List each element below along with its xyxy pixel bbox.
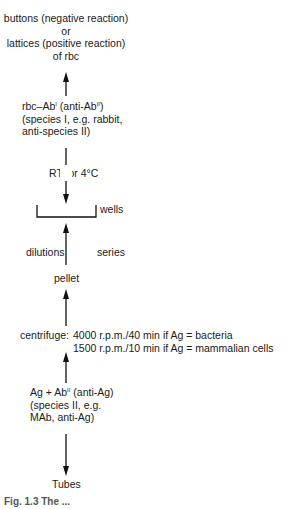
rbc-ab-node: rbc–AbI (anti-AbII) (species I, e.g. rab… bbox=[22, 100, 122, 138]
anti-ag-text: (anti-Ag) bbox=[70, 386, 113, 398]
result-line-3: lattices (positive reaction) bbox=[2, 37, 130, 50]
pellet-label: pellet bbox=[54, 272, 79, 285]
result-line-2: or bbox=[2, 25, 130, 38]
figure-caption: Fig. 1.3 The ... bbox=[4, 496, 70, 509]
arrow-up-to-result bbox=[63, 72, 69, 96]
tubes-label: Tubes bbox=[52, 478, 81, 491]
wells-label: wells bbox=[100, 203, 123, 216]
rbc-ab-line-3: anti-species II) bbox=[22, 125, 122, 138]
centrifuge-label: centrifuge: bbox=[20, 329, 69, 342]
series-label: series bbox=[97, 246, 125, 259]
incubation-label: RT or 4°C bbox=[49, 167, 98, 180]
centrifuge-conditions: 4000 r.p.m./40 min if Ag = bacteria 1500… bbox=[73, 329, 273, 354]
arrow-up-to-wells bbox=[63, 223, 69, 265]
result-line-4: of rbc bbox=[2, 50, 130, 63]
ag-ab-line-3: MAb, anti-Ag) bbox=[30, 411, 114, 424]
rbc-ab-line-1: rbc–AbI (anti-AbII) bbox=[22, 100, 122, 113]
ag-ab-line-1: Ag + AbII (anti-Ag) bbox=[30, 386, 114, 399]
centrifuge-line-1: 4000 r.p.m./40 min if Ag = bacteria bbox=[73, 329, 273, 342]
arrow-down-to-tubes bbox=[63, 434, 69, 476]
rbc-ab-line-2: (species I, e.g. rabbit, bbox=[22, 113, 122, 126]
ag-ab-node: Ag + AbII (anti-Ag) (species II, e.g. MA… bbox=[30, 386, 114, 424]
result-node: buttons (negative reaction) or lattices … bbox=[2, 12, 130, 62]
close-paren: ) bbox=[100, 100, 104, 112]
centrifuge-line-2: 1500 r.p.m./10 min if Ag = mammalian cel… bbox=[73, 342, 273, 355]
result-line-1: buttons (negative reaction) bbox=[2, 12, 130, 25]
incubation-gap bbox=[60, 165, 72, 181]
dilutions-label: dilutions bbox=[26, 246, 65, 259]
anti-ab-text: (anti-Ab bbox=[57, 100, 97, 112]
arrow-up-to-pellet bbox=[63, 289, 69, 326]
ag-ab-text: Ag + Ab bbox=[30, 386, 67, 398]
ag-ab-line-2: (species II, e.g. bbox=[30, 399, 114, 412]
arrow-up-to-centrifuge bbox=[63, 352, 69, 383]
rbc-ab-text: rbc–Ab bbox=[22, 100, 55, 112]
wells-bracket bbox=[37, 205, 96, 217]
